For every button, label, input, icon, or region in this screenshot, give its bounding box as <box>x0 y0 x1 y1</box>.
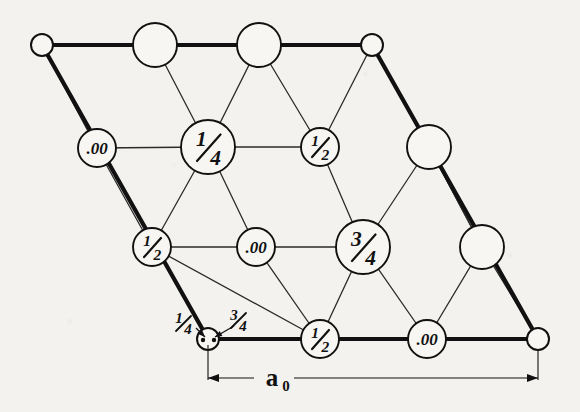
atom-height-label: .00 <box>245 238 267 257</box>
callout-denominator: 4 <box>183 321 192 337</box>
atom-half-upper-right: 12 <box>301 128 339 166</box>
fraction-numerator: 1 <box>311 132 319 149</box>
crystal-structure-diagram: .00141212.003412.00 1434 a0 <box>0 0 580 412</box>
callout-numerator: 3 <box>229 307 238 323</box>
atom-circle <box>31 34 53 56</box>
atom-height-label: .00 <box>416 330 438 349</box>
fraction-denominator: 2 <box>321 146 330 163</box>
atom-half-bottom: 12 <box>301 320 339 358</box>
corner-atom-bottom-right <box>527 328 549 350</box>
right-atom-upper <box>407 125 451 169</box>
corner-atom-dot <box>212 338 216 342</box>
corner-atom-top-right <box>361 34 383 56</box>
dimension-label-a0: a <box>266 364 279 391</box>
top-edge-atom-1 <box>133 23 177 67</box>
dimension-label-subscript: 0 <box>282 378 290 394</box>
fraction-numerator: 1 <box>311 324 319 341</box>
atom-circle <box>237 23 281 67</box>
atom-zero-center: .00 <box>237 228 275 266</box>
atom-half-left: 12 <box>133 228 171 266</box>
top-edge-atom-2 <box>237 23 281 67</box>
corner-atom-dot <box>201 338 205 342</box>
atom-circle <box>133 23 177 67</box>
atom-three-quarter-center: 34 <box>336 220 390 274</box>
right-atom-lower <box>460 225 504 269</box>
callout-numerator: 1 <box>175 310 183 326</box>
atom-height-label: .00 <box>86 139 108 158</box>
fraction-numerator: 1 <box>196 127 207 151</box>
fraction-denominator: 4 <box>209 146 221 170</box>
fraction-denominator: 2 <box>153 246 162 263</box>
fraction-denominator: 4 <box>364 246 376 270</box>
fraction-denominator: 2 <box>321 338 330 355</box>
atom-circle <box>527 328 549 350</box>
atom-zero-bottom: .00 <box>408 320 446 358</box>
callout-denominator: 4 <box>238 318 247 334</box>
atom-circle <box>361 34 383 56</box>
atom-zero-left: .00 <box>78 129 116 167</box>
atom-quarter-center: 14 <box>181 120 235 174</box>
crystal-structure-figure: .00141212.003412.00 1434 a0 <box>0 0 580 412</box>
corner-atom-top-left <box>31 34 53 56</box>
atom-circle <box>460 225 504 269</box>
fraction-numerator: 1 <box>143 232 151 249</box>
atom-circle <box>407 125 451 169</box>
paper-background <box>0 0 580 412</box>
fraction-numerator: 3 <box>350 227 362 251</box>
